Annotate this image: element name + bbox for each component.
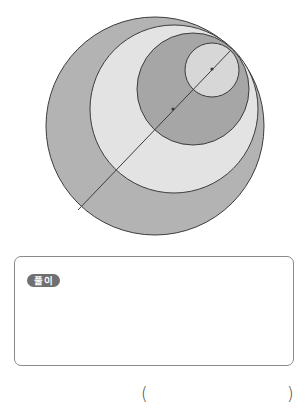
concentric-circles-figure <box>0 0 308 245</box>
answer-open-paren: ( <box>141 384 148 404</box>
solution-badge: 풀이 <box>27 274 60 287</box>
center-dot-inner <box>210 67 213 70</box>
answer-close-paren: ) <box>287 384 294 404</box>
solution-box: 풀이 <box>14 256 294 366</box>
center-dot-second <box>171 107 174 110</box>
